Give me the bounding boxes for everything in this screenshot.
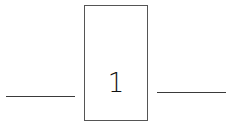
blank-line-right xyxy=(157,92,226,93)
number-box: 1 xyxy=(84,5,148,121)
blank-line-left xyxy=(6,96,75,97)
box-number: 1 xyxy=(85,68,147,98)
